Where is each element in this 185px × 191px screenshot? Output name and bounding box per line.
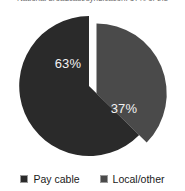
- chart-title: National broadcast/syndication: 37% of t…: [0, 0, 185, 4]
- pie-label-pay-cable: 63%: [55, 56, 82, 71]
- legend-label-local-other: Local/other: [113, 174, 165, 185]
- pie-chart-svg: 63% 37%: [0, 6, 185, 168]
- chart-legend: Pay cable Local/other: [0, 169, 185, 189]
- legend-item-local-other[interactable]: Local/other: [100, 174, 165, 185]
- legend-label-pay-cable: Pay cable: [33, 174, 79, 185]
- pie-chart: 63% 37%: [0, 6, 185, 168]
- legend-swatch-local-other: [100, 175, 108, 183]
- pie-label-local-other: 37%: [111, 101, 138, 116]
- legend-swatch-pay-cable: [20, 175, 28, 183]
- legend-item-pay-cable[interactable]: Pay cable: [20, 174, 79, 185]
